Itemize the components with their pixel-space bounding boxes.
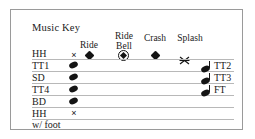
note-stem-ft bbox=[209, 85, 210, 92]
column-header-crash-label: Crash bbox=[144, 33, 166, 43]
row-label-tt4: TT4 bbox=[32, 84, 49, 95]
note-stem-tt3 bbox=[209, 73, 210, 80]
page-title: Music Key bbox=[32, 22, 80, 33]
column-header-crash: Crash bbox=[137, 33, 173, 43]
row-label-sd: SD bbox=[32, 72, 45, 83]
row-label-ft: FT bbox=[214, 84, 226, 95]
staff-line-hh bbox=[32, 59, 234, 60]
row-label-bd: BD bbox=[32, 96, 46, 107]
row-label-tt2: TT2 bbox=[214, 60, 231, 71]
row-label-hh-foot-second-line: w/ foot bbox=[32, 119, 61, 130]
column-header-splash: Splash bbox=[170, 33, 210, 43]
staff-line-bd bbox=[32, 107, 234, 108]
row-label-tt1: TT1 bbox=[32, 60, 49, 71]
column-header-splash-label: Splash bbox=[177, 33, 202, 43]
note-bd bbox=[68, 97, 79, 106]
column-header-ride-label: Ride bbox=[80, 40, 98, 50]
note-hh-foot: × bbox=[70, 109, 78, 117]
column-header-ride-bell-line1: Ride bbox=[115, 31, 133, 41]
note-stem-tt2 bbox=[209, 61, 210, 68]
column-header-ride: Ride bbox=[73, 40, 105, 50]
row-label-hh: HH bbox=[32, 48, 46, 59]
row-label-tt3: TT3 bbox=[214, 72, 231, 83]
row-label-hh-foot: HH bbox=[32, 108, 46, 119]
staff-line-hh-foot bbox=[32, 119, 234, 120]
note-sd bbox=[68, 73, 79, 82]
music-key-frame: Music Key Ride Ride Bell Crash Splash × … bbox=[10, 9, 243, 130]
note-tt1 bbox=[68, 61, 79, 70]
hh-x-note-icon: × bbox=[70, 51, 78, 59]
note-tt4 bbox=[68, 85, 79, 94]
